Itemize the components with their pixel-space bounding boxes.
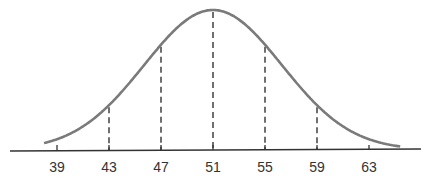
x-tick-label-59: 59 xyxy=(309,159,325,175)
dashed-lines xyxy=(109,12,317,150)
bell-curve xyxy=(44,10,400,147)
chart: 39434751555963 xyxy=(0,0,431,185)
x-axis xyxy=(10,149,421,151)
x-tick-label-55: 55 xyxy=(257,159,273,175)
x-tick-label-51: 51 xyxy=(205,159,221,175)
x-tick-label-63: 63 xyxy=(361,159,377,175)
x-tick-label-47: 47 xyxy=(153,159,169,175)
x-tick-labels: 39434751555963 xyxy=(49,159,377,175)
x-tick-label-43: 43 xyxy=(101,159,117,175)
x-tick-label-39: 39 xyxy=(49,159,65,175)
